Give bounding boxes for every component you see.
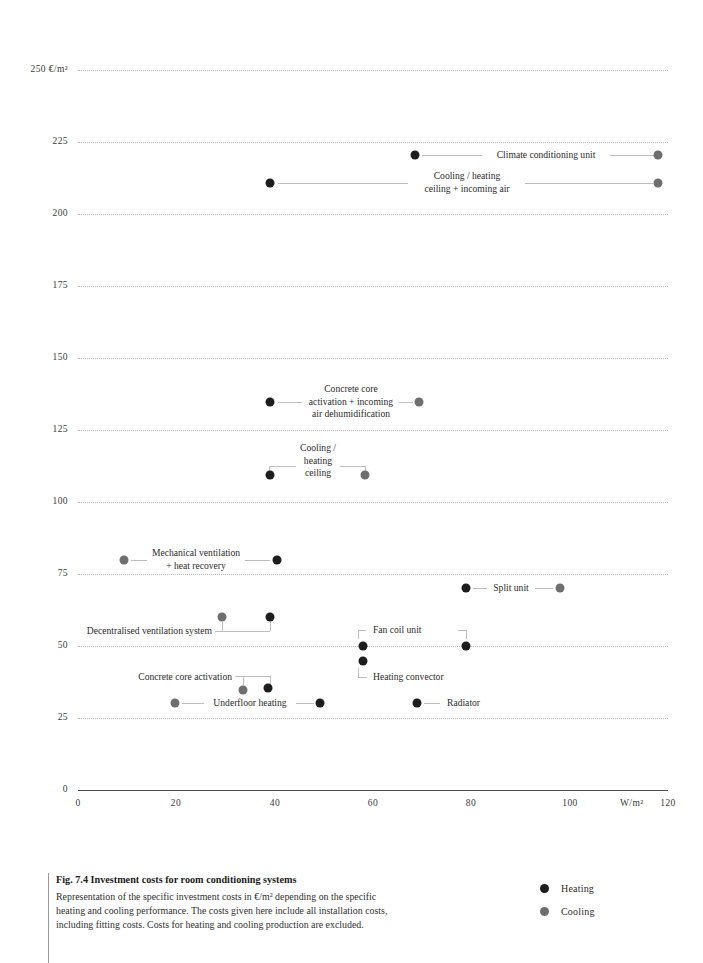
point-concrete-core-dehumid-cooling[interactable] [415, 398, 424, 407]
label-mechanical-ventilation-heat-recovery: Mechanical ventilation + heat recovery [149, 547, 243, 572]
point-concrete-core-activation-heating[interactable] [264, 684, 273, 693]
connector-underfloor-heating-right [296, 703, 314, 704]
point-mechanical-ventilation-cooling[interactable] [120, 556, 129, 565]
point-decentralised-ventilation-cooling[interactable] [218, 613, 227, 622]
x-axis-tick-40: 40 [270, 798, 280, 808]
connector-mechanical-ventilation-left [131, 560, 147, 561]
connector-concrete-core-left-stem [243, 676, 244, 685]
connector-decentralised-ventilation-bar [222, 631, 270, 632]
connector-climate-conditioning-unit-right [610, 155, 654, 156]
point-underfloor-heating-heating[interactable] [316, 699, 325, 708]
point-concrete-core-dehumid-heating[interactable] [266, 398, 275, 407]
gridline-175 [78, 286, 668, 287]
point-climate-conditioning-unit-heating[interactable] [411, 151, 420, 160]
point-concrete-core-activation-cooling[interactable] [239, 686, 248, 695]
connector-cooling-heating-ceiling-air-right [525, 183, 653, 184]
label-fan-coil-unit: Fan coil unit [370, 624, 425, 637]
y-axis-tick-100: 100 [53, 496, 68, 506]
point-radiator-heating[interactable] [413, 699, 422, 708]
point-heating-convector[interactable] [359, 657, 368, 666]
connector-heating-convector-tick [358, 677, 367, 678]
gridline-50 [78, 646, 668, 647]
point-decentralised-ventilation-heating[interactable] [266, 613, 275, 622]
legend-label-cooling: Cooling [561, 906, 595, 917]
connector-climate-conditioning-unit-left [422, 155, 482, 156]
connector-split-unit-left [473, 588, 487, 589]
caption-body: Representation of the specific investmen… [56, 890, 401, 933]
gridline-75 [78, 574, 668, 575]
caption-area: Fig. 7.4 Investment costs for room condi… [0, 855, 703, 963]
label-underfloor-heating: Underfloor heating [210, 697, 289, 710]
point-fan-coil-unit-left[interactable] [359, 642, 368, 651]
x-axis-tick-20: 20 [171, 798, 181, 808]
y-axis-tick-0: 0 [63, 784, 68, 794]
y-axis-tick-25: 25 [58, 712, 68, 722]
connector-cooling-heating-ceiling-right [340, 466, 366, 467]
gridline-250 [78, 70, 668, 71]
point-cooling-heating-ceiling-heating[interactable] [266, 471, 275, 480]
connector-concrete-core-dehumid-right [399, 402, 413, 403]
connector-decentralised-ventilation-left-stem [222, 622, 223, 631]
connector-concrete-core-label [235, 676, 244, 677]
connector-fan-coil-left-tick [358, 630, 366, 631]
connector-cooling-heating-ceiling-left [269, 466, 296, 467]
point-fan-coil-unit-right[interactable] [462, 642, 471, 651]
y-axis-tick-150: 150 [53, 352, 68, 362]
connector-fan-coil-left-stem [358, 630, 359, 639]
x-axis-tick-0: 0 [75, 798, 80, 808]
x-axis-tick-100: 100 [562, 798, 577, 808]
connector-cooling-heating-ceiling-air-left [278, 183, 408, 184]
x-axis-unit-label: W/m² [620, 798, 643, 808]
gridline-25 [78, 718, 668, 719]
figure-page: 250 €/m² 225 200 175 150 125 100 75 50 2… [0, 0, 703, 963]
connector-split-unit-right [535, 588, 553, 589]
y-axis-tick-225: 225 [53, 136, 68, 146]
label-concrete-core-activation-dehumidification: Concrete core activation + incoming air … [306, 383, 396, 421]
x-axis-tick-80: 80 [466, 798, 476, 808]
gridline-100 [78, 502, 668, 503]
y-axis-tick-200: 200 [53, 208, 68, 218]
caption-text: Fig. 7.4 Investment costs for room condi… [56, 873, 401, 933]
x-axis-line [78, 790, 668, 791]
point-split-unit-heating[interactable] [462, 584, 471, 593]
connector-concrete-core-bar [243, 676, 270, 677]
legend-dot-heating-icon [540, 884, 549, 893]
label-climate-conditioning-unit: Climate conditioning unit [494, 149, 599, 162]
legend-row-cooling: Cooling [540, 900, 595, 923]
caption-title: Fig. 7.4 Investment costs for room condi… [56, 873, 401, 887]
legend-row-heating: Heating [540, 877, 595, 900]
connector-fan-coil-right-tick [458, 630, 466, 631]
gridline-200 [78, 214, 668, 215]
gridline-125 [78, 430, 668, 431]
gridline-150 [78, 358, 668, 359]
label-decentralised-ventilation-system: Decentralised ventilation system [84, 625, 215, 638]
scatter-plot: 250 €/m² 225 200 175 150 125 100 75 50 2… [0, 0, 703, 830]
label-heating-convector: Heating convector [370, 671, 447, 684]
connector-underfloor-heating-left [182, 703, 204, 704]
point-climate-conditioning-unit-cooling[interactable] [654, 151, 663, 160]
legend-label-heating: Heating [561, 883, 594, 894]
connector-fan-coil-right-stem [466, 630, 467, 639]
point-cooling-heating-ceiling-air-cooling[interactable] [654, 179, 663, 188]
gridline-225 [78, 142, 668, 143]
point-mechanical-ventilation-heating[interactable] [273, 556, 282, 565]
label-radiator: Radiator [444, 697, 483, 710]
point-split-unit-cooling[interactable] [556, 584, 565, 593]
connector-mechanical-ventilation-right [245, 560, 270, 561]
x-axis-tick-60: 60 [368, 798, 378, 808]
chart-legend: Heating Cooling [540, 877, 595, 923]
point-cooling-heating-ceiling-air-heating[interactable] [266, 179, 275, 188]
connector-decentralised-ventilation-label [215, 631, 223, 632]
x-axis-tick-120: 120 [660, 798, 675, 808]
y-axis-tick-125: 125 [53, 424, 68, 434]
point-underfloor-heating-cooling[interactable] [171, 699, 180, 708]
legend-dot-cooling-icon [540, 907, 549, 916]
connector-radiator [424, 703, 440, 704]
connector-decentralised-ventilation-right-stem [270, 622, 271, 631]
label-cooling-heating-ceiling: Cooling / heating ceiling [297, 442, 339, 480]
label-cooling-heating-ceiling-incoming-air: Cooling / heating ceiling + incoming air [421, 170, 512, 195]
label-split-unit: Split unit [490, 582, 531, 595]
point-cooling-heating-ceiling-cooling[interactable] [361, 471, 370, 480]
y-axis-tick-75: 75 [58, 568, 68, 578]
y-axis-tick-250: 250 €/m² [31, 64, 68, 74]
